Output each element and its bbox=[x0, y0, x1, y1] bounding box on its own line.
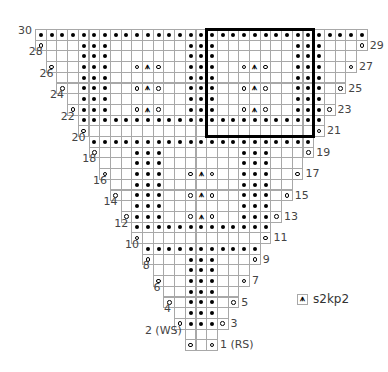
s2kp2-symbol-icon: ⩚ bbox=[252, 63, 258, 71]
yo-circle-icon bbox=[263, 86, 268, 91]
dot-icon bbox=[253, 225, 257, 229]
dot-icon bbox=[242, 161, 246, 165]
yo-circle-icon bbox=[135, 107, 140, 112]
dot-icon bbox=[264, 183, 268, 187]
dot-icon bbox=[103, 140, 107, 144]
dot-icon bbox=[253, 172, 257, 176]
dot-icon bbox=[210, 108, 214, 112]
dot-icon bbox=[317, 44, 321, 48]
legend-label-s2kp2: s2kp2 bbox=[313, 292, 349, 306]
dot-icon bbox=[199, 140, 203, 144]
dot-icon bbox=[157, 225, 161, 229]
dot-icon bbox=[157, 33, 161, 37]
s2kp2-symbol-icon: ⩚ bbox=[199, 170, 205, 178]
dot-icon bbox=[178, 118, 182, 122]
yo-circle-icon bbox=[188, 214, 193, 219]
dot-icon bbox=[146, 225, 150, 229]
dot-icon bbox=[135, 172, 139, 176]
row-label-4: 4 bbox=[164, 303, 171, 314]
dot-icon bbox=[317, 76, 321, 80]
yo-circle-icon bbox=[263, 236, 268, 241]
row-label-24: 24 bbox=[50, 89, 64, 100]
dot-icon bbox=[199, 300, 203, 304]
dot-icon bbox=[285, 118, 289, 122]
dot-icon bbox=[296, 54, 300, 58]
yo-circle-icon bbox=[253, 257, 258, 262]
yo-circle-icon bbox=[338, 86, 343, 91]
yo-circle-icon bbox=[242, 86, 247, 91]
yo-stitch-cell bbox=[292, 168, 304, 180]
dot-icon bbox=[135, 33, 139, 37]
yo-circle-icon bbox=[156, 107, 161, 112]
dot-icon bbox=[242, 193, 246, 197]
dot-icon bbox=[178, 140, 182, 144]
dot-icon bbox=[178, 247, 182, 251]
dot-icon bbox=[210, 247, 214, 251]
dot-icon bbox=[157, 193, 161, 197]
dot-icon bbox=[242, 215, 246, 219]
dot-icon bbox=[231, 33, 235, 37]
dot-icon bbox=[264, 33, 268, 37]
dot-icon bbox=[199, 65, 203, 69]
dot-icon bbox=[296, 86, 300, 90]
yo-stitch-cell bbox=[356, 40, 368, 52]
dot-icon bbox=[306, 54, 310, 58]
dot-icon bbox=[317, 54, 321, 58]
row-label-26: 26 bbox=[39, 68, 53, 79]
s2kp2-symbol-icon: ⩚ bbox=[252, 106, 258, 114]
dot-icon bbox=[210, 225, 214, 229]
row-label-20: 20 bbox=[72, 132, 86, 143]
dot-icon bbox=[199, 268, 203, 272]
dot-icon bbox=[199, 247, 203, 251]
dot-icon bbox=[157, 151, 161, 155]
dot-icon bbox=[189, 140, 193, 144]
dot-icon bbox=[349, 33, 353, 37]
yo-circle-icon bbox=[210, 214, 215, 219]
yo-circle-icon bbox=[327, 107, 332, 112]
dot-icon bbox=[92, 118, 96, 122]
dot-icon bbox=[242, 204, 246, 208]
yo-circle-icon bbox=[135, 86, 140, 91]
dot-icon bbox=[296, 33, 300, 37]
dot-icon bbox=[189, 225, 193, 229]
dot-icon bbox=[178, 225, 182, 229]
row-label-3: 3 bbox=[231, 318, 238, 329]
dot-icon bbox=[50, 33, 54, 37]
row-label-12: 12 bbox=[114, 218, 128, 229]
dot-icon bbox=[157, 247, 161, 251]
dot-icon bbox=[146, 118, 150, 122]
dot-icon bbox=[189, 322, 193, 326]
dot-icon bbox=[221, 247, 225, 251]
dot-icon bbox=[264, 215, 268, 219]
yo-circle-icon bbox=[231, 300, 236, 305]
dot-icon bbox=[82, 108, 86, 112]
dot-icon bbox=[306, 44, 310, 48]
dot-icon bbox=[157, 140, 161, 144]
yo-circle-icon bbox=[210, 343, 215, 348]
dot-icon bbox=[221, 225, 225, 229]
dot-icon bbox=[199, 322, 203, 326]
dot-icon bbox=[92, 97, 96, 101]
dot-icon bbox=[210, 44, 214, 48]
dot-icon bbox=[199, 279, 203, 283]
dot-icon bbox=[242, 247, 246, 251]
dot-icon bbox=[242, 118, 246, 122]
dot-icon bbox=[253, 247, 257, 251]
yo-circle-icon bbox=[349, 65, 354, 70]
dot-icon bbox=[82, 76, 86, 80]
dot-icon bbox=[146, 151, 150, 155]
dot-icon bbox=[253, 193, 257, 197]
dot-icon bbox=[210, 258, 214, 262]
dot-icon bbox=[253, 215, 257, 219]
dot-icon bbox=[114, 33, 118, 37]
dot-icon bbox=[92, 76, 96, 80]
dot-icon bbox=[306, 108, 310, 112]
dot-icon bbox=[264, 204, 268, 208]
dot-icon bbox=[189, 33, 193, 37]
row-label-13: 13 bbox=[284, 211, 298, 222]
row-label-1: 1 (RS) bbox=[220, 339, 254, 350]
dot-icon bbox=[135, 140, 139, 144]
row-label-23: 23 bbox=[338, 104, 352, 115]
dot-icon bbox=[199, 97, 203, 101]
dot-icon bbox=[317, 118, 321, 122]
